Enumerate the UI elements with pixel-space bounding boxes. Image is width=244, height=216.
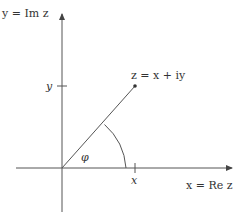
complex-plane-diagram: y = Im z x = Re z z = x + iy φ x y bbox=[0, 0, 244, 216]
x-axis-label: x = Re z bbox=[186, 179, 233, 192]
y-tick-label: y bbox=[45, 80, 53, 93]
point-label: z = x + iy bbox=[131, 69, 186, 82]
y-axis-label: y = Im z bbox=[1, 7, 49, 20]
angle-label: φ bbox=[81, 151, 89, 164]
x-tick-label: x bbox=[131, 174, 138, 187]
angle-arc bbox=[105, 125, 127, 169]
point-z bbox=[133, 84, 137, 88]
